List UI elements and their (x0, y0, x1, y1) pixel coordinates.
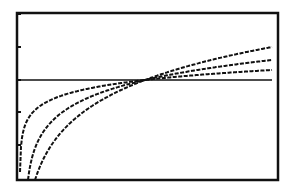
plot-frame (17, 13, 278, 180)
curve-1 (20, 70, 272, 172)
graph-screen (0, 0, 289, 189)
log-curves (20, 47, 272, 180)
curve-3 (35, 47, 272, 180)
